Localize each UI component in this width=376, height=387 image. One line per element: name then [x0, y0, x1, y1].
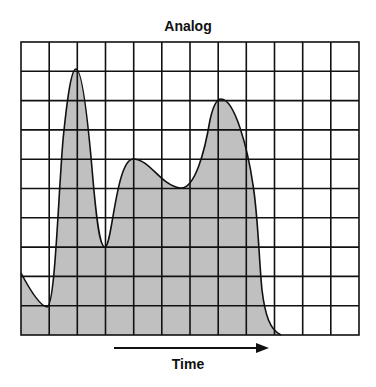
- analog-chart: [0, 0, 376, 387]
- time-arrow-icon: [114, 343, 269, 353]
- x-axis-label: Time: [0, 356, 376, 372]
- waveform-area: [21, 69, 281, 335]
